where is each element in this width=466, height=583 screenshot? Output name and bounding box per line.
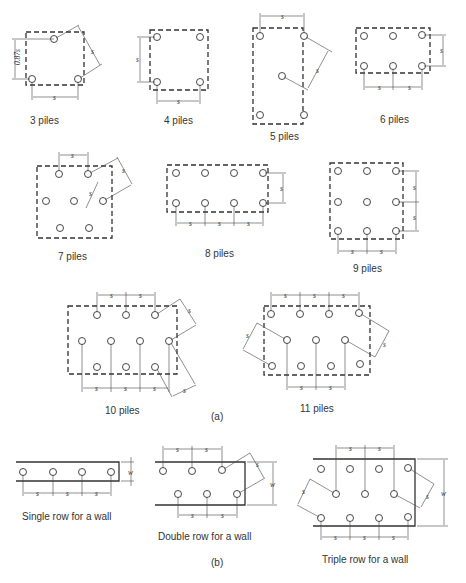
caption-6-piles: 6 piles <box>380 114 409 125</box>
dim-s: s <box>380 247 383 256</box>
caption-triple-row: Triple row for a wall <box>322 554 408 565</box>
dim-s: s <box>316 66 319 75</box>
dim-s: s <box>153 384 156 393</box>
dim-s: s <box>139 291 142 300</box>
dim-s: s <box>313 291 316 300</box>
dim-s: s <box>53 93 56 102</box>
part-b-label: (b) <box>211 557 223 568</box>
group-10-piles: s s s s s s s 10 piles <box>68 291 196 416</box>
caption-11-piles: 11 piles <box>300 403 334 414</box>
group-9-piles: s s s s 9 piles <box>330 163 419 274</box>
dim-s: s <box>280 184 283 193</box>
dim-s: s <box>378 444 381 453</box>
dim-w: w <box>441 489 446 498</box>
group-single-row-wall: w s s s Single row for a wall <box>16 457 134 522</box>
caption-7-piles: 7 piles <box>58 251 87 262</box>
dim-s: s <box>440 46 443 55</box>
dim-s: s <box>383 340 386 349</box>
dim-s: s <box>256 460 259 469</box>
group-8-piles: s s s s 8 piles <box>167 165 286 259</box>
dim-s: s <box>351 247 354 256</box>
dim-s: s <box>392 533 395 542</box>
group-7-piles: s s s 7 piles <box>37 151 132 262</box>
caption-5-piles: 5 piles <box>270 131 299 142</box>
dim-s: s <box>95 384 98 393</box>
pile-arrangement-diagram: s 0.87s s 3 piles s s 4 piles <box>0 0 466 583</box>
dim-s: s <box>408 83 411 92</box>
caption-10-piles: 10 piles <box>105 405 139 416</box>
dim-s: s <box>413 183 416 192</box>
dim-s: s <box>426 492 429 501</box>
dim-s: s <box>300 383 303 392</box>
dim-s: s <box>71 151 74 160</box>
dim-s: s <box>110 291 113 300</box>
dim-s: s <box>413 213 416 222</box>
dim-s: s <box>205 445 208 454</box>
dim-s: s <box>334 533 337 542</box>
dim-s: s <box>95 489 98 498</box>
group-triple-row-wall: s s s s w s s s Triple row for a wall <box>297 444 448 565</box>
dim-s: s <box>349 444 352 453</box>
dim-s: s <box>221 511 224 520</box>
group-double-row-wall: s s s w s s Double row for a wall <box>155 445 277 542</box>
group-6-piles: s s s 6 piles <box>356 28 446 125</box>
dim-s: s <box>191 511 194 520</box>
dim-s: s <box>89 189 92 198</box>
dim-s: s <box>188 306 191 315</box>
dim-s: s <box>378 83 381 92</box>
dim-s: s <box>176 445 179 454</box>
group-11-piles: s s s s s s s 11 piles <box>243 291 389 414</box>
dim-s: s <box>363 533 366 542</box>
dim-s: s <box>218 219 221 228</box>
caption-3-piles: 3 piles <box>30 115 59 126</box>
dim-s: s <box>183 386 186 395</box>
dim-s: s <box>329 383 332 392</box>
group-4-piles: s s 4 piles <box>136 30 208 126</box>
dim-s: s <box>284 291 287 300</box>
caption-4-piles: 4 piles <box>164 115 193 126</box>
dim-s: s <box>189 219 192 228</box>
dim-s: s <box>247 219 250 228</box>
dim-s: s <box>66 489 69 498</box>
group-3-piles: s 0.87s s 3 piles <box>12 25 102 126</box>
dim-s: s <box>136 55 139 64</box>
dim-w: w <box>128 468 133 477</box>
caption-double-row: Double row for a wall <box>158 531 251 542</box>
caption-8-piles: 8 piles <box>205 248 234 259</box>
dim-s: s <box>281 12 284 21</box>
dim-w: w <box>270 480 275 489</box>
caption-single-row: Single row for a wall <box>22 511 111 522</box>
caption-9-piles: 9 piles <box>353 263 382 274</box>
dim-s: s <box>91 47 94 56</box>
dim-s: s <box>342 291 345 300</box>
dim-s: s <box>36 489 39 498</box>
dim-s: s <box>177 97 180 106</box>
part-a-label: (a) <box>211 411 223 422</box>
group-5-piles: s s 5 piles <box>253 12 332 142</box>
dim-087s: 0.87s <box>13 49 22 65</box>
dim-s: s <box>122 166 125 175</box>
dim-s: s <box>246 331 249 340</box>
dim-s: s <box>302 487 305 496</box>
dim-s: s <box>124 384 127 393</box>
